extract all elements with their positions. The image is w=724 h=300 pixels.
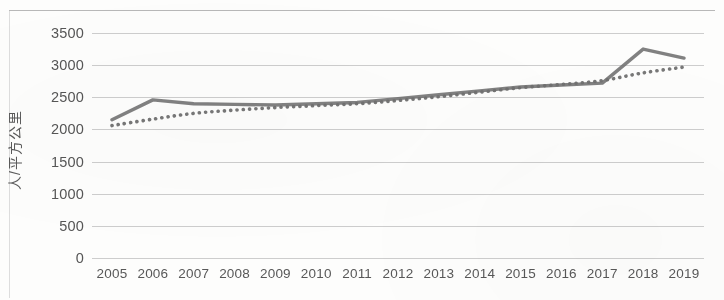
gridline: [92, 258, 704, 259]
x-tick-label: 2018: [628, 266, 659, 281]
chart-page: 人/平方公里 3500300025002000150010005000 2005…: [0, 0, 724, 300]
y-tick-label: 3500: [51, 25, 84, 41]
x-tick-label: 2016: [546, 266, 577, 281]
y-axis-tick-labels: 3500300025002000150010005000: [32, 33, 84, 258]
y-tick-label: 0: [76, 250, 84, 266]
x-tick-label: 2009: [260, 266, 291, 281]
y-tick-label: 500: [59, 218, 84, 234]
x-tick-label: 2012: [383, 266, 414, 281]
x-tick-label: 2007: [178, 266, 209, 281]
x-tick-label: 2014: [464, 266, 495, 281]
y-tick-label: 1500: [51, 154, 84, 170]
x-tick-label: 2011: [342, 266, 372, 281]
series-line-trend: [112, 67, 684, 126]
x-tick-label: 2008: [219, 266, 250, 281]
x-tick-label: 2019: [669, 266, 700, 281]
x-tick-label: 2005: [97, 266, 128, 281]
x-tick-label: 2010: [301, 266, 332, 281]
series-layer: [92, 33, 704, 258]
x-tick-label: 2015: [505, 266, 536, 281]
x-tick-label: 2013: [423, 266, 454, 281]
x-tick-label: 2017: [587, 266, 618, 281]
y-tick-label: 1000: [51, 186, 84, 202]
y-tick-label: 2500: [51, 89, 84, 105]
y-tick-label: 2000: [51, 121, 84, 137]
x-axis-tick-labels: 2005200620072008200920102011201220132014…: [92, 266, 704, 288]
plot-area: [92, 33, 704, 258]
y-axis-title: 人/平方公里: [4, 110, 24, 190]
x-tick-label: 2006: [137, 266, 168, 281]
y-tick-label: 3000: [51, 57, 84, 73]
series-line-actual: [112, 49, 684, 120]
